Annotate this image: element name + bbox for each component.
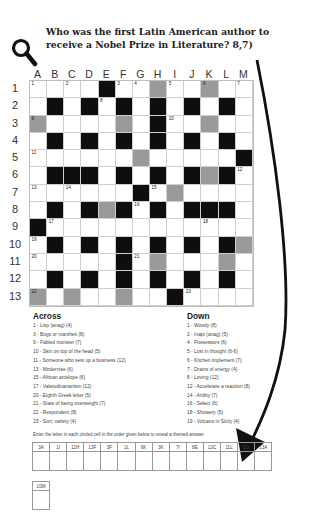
grid-cell[interactable]: [30, 98, 47, 115]
grid-cell[interactable]: [201, 133, 218, 150]
grid-cell[interactable]: [201, 185, 218, 202]
grid-cell[interactable]: [133, 98, 150, 115]
grid-cell[interactable]: [99, 254, 116, 271]
grid-cell[interactable]: [167, 271, 184, 288]
answer-letter-slot[interactable]: [33, 491, 49, 509]
grid-cell[interactable]: 7: [236, 81, 253, 98]
grid-cell[interactable]: 8: [99, 98, 116, 115]
grid-cell[interactable]: 3: [116, 81, 133, 98]
grid-cell[interactable]: 2: [64, 81, 81, 98]
circled-cell[interactable]: [167, 185, 184, 202]
grid-cell[interactable]: [47, 81, 64, 98]
grid-cell[interactable]: [236, 98, 253, 115]
circled-cell[interactable]: 9: [30, 116, 47, 133]
grid-cell[interactable]: [64, 116, 81, 133]
grid-cell[interactable]: [133, 271, 150, 288]
grid-cell[interactable]: [150, 219, 167, 236]
answer-box[interactable]: 5G: [238, 442, 255, 471]
grid-cell[interactable]: [81, 254, 98, 271]
grid-cell[interactable]: [150, 289, 167, 306]
answer-box[interactable]: 3A: [33, 442, 50, 471]
circled-cell[interactable]: [201, 116, 218, 133]
grid-cell[interactable]: [150, 150, 167, 167]
grid-cell[interactable]: 12: [236, 167, 253, 184]
grid-cell[interactable]: [99, 116, 116, 133]
answer-letter-slot[interactable]: [238, 452, 254, 470]
grid-cell[interactable]: [30, 167, 47, 184]
grid-cell[interactable]: [81, 150, 98, 167]
grid-cell[interactable]: [219, 81, 236, 98]
answer-letter-slot[interactable]: [67, 452, 83, 470]
answer-letter-slot[interactable]: [170, 452, 186, 470]
grid-cell[interactable]: [64, 219, 81, 236]
circled-cell[interactable]: [150, 81, 167, 98]
answer-letter-slot[interactable]: [255, 452, 271, 470]
answer-box[interactable]: 13C: [204, 442, 221, 471]
grid-cell[interactable]: [99, 167, 116, 184]
circled-cell[interactable]: [64, 289, 81, 306]
grid-cell[interactable]: 17: [47, 219, 64, 236]
grid-cell[interactable]: [133, 167, 150, 184]
grid-cell[interactable]: [219, 116, 236, 133]
answer-letter-slot[interactable]: [187, 452, 203, 470]
grid-cell[interactable]: [167, 167, 184, 184]
answer-box[interactable]: 6K: [136, 442, 153, 471]
circled-cell[interactable]: [201, 167, 218, 184]
grid-cell[interactable]: [30, 133, 47, 150]
grid-cell[interactable]: 1: [30, 81, 47, 98]
grid-cell[interactable]: [99, 133, 116, 150]
grid-cell[interactable]: [184, 219, 201, 236]
grid-cell[interactable]: [64, 237, 81, 254]
circled-cell[interactable]: [133, 150, 150, 167]
grid-cell[interactable]: [30, 271, 47, 288]
grid-cell[interactable]: [201, 271, 218, 288]
grid-cell[interactable]: [219, 150, 236, 167]
grid-cell[interactable]: 23: [184, 289, 201, 306]
grid-cell[interactable]: 14: [64, 185, 81, 202]
grid-cell[interactable]: 5: [167, 81, 184, 98]
grid-cell[interactable]: [133, 219, 150, 236]
grid-cell[interactable]: [133, 116, 150, 133]
grid-cell[interactable]: [167, 150, 184, 167]
answer-letter-slot[interactable]: [136, 452, 152, 470]
answer-letter-slot[interactable]: [118, 452, 134, 470]
answer-box[interactable]: 11H: [67, 442, 84, 471]
grid-cell[interactable]: [64, 271, 81, 288]
grid-cell[interactable]: [81, 219, 98, 236]
grid-cell[interactable]: [219, 289, 236, 306]
grid-cell[interactable]: [236, 116, 253, 133]
grid-cell[interactable]: 20: [30, 254, 47, 271]
grid-cell[interactable]: [81, 185, 98, 202]
circled-cell[interactable]: [116, 289, 133, 306]
grid-cell[interactable]: [184, 81, 201, 98]
grid-cell[interactable]: [167, 202, 184, 219]
grid-cell[interactable]: 21: [133, 254, 150, 271]
answer-box[interactable]: 1L: [118, 442, 135, 471]
grid-cell[interactable]: [99, 219, 116, 236]
grid-cell[interactable]: [64, 150, 81, 167]
answer-letter-slot[interactable]: [221, 452, 237, 470]
grid-cell[interactable]: [47, 116, 64, 133]
circled-cell[interactable]: [99, 202, 116, 219]
answer-box[interactable]: 11L: [221, 442, 238, 471]
answer-letter-slot[interactable]: [153, 452, 169, 470]
grid-cell[interactable]: 11: [30, 150, 47, 167]
grid-cell[interactable]: 18: [201, 219, 218, 236]
grid-cell[interactable]: [116, 150, 133, 167]
grid-cell[interactable]: 15: [150, 185, 167, 202]
grid-cell[interactable]: [167, 133, 184, 150]
grid-cell[interactable]: [167, 237, 184, 254]
grid-cell[interactable]: [47, 150, 64, 167]
grid-cell[interactable]: [30, 202, 47, 219]
grid-cell[interactable]: [184, 254, 201, 271]
grid-cell[interactable]: [64, 254, 81, 271]
grid-cell[interactable]: [81, 289, 98, 306]
grid-cell[interactable]: [201, 254, 218, 271]
answer-box[interactable]: 3F: [101, 442, 118, 471]
answer-letter-slot[interactable]: [33, 452, 49, 470]
grid-cell[interactable]: [236, 202, 253, 219]
answer-box[interactable]: 3K: [153, 442, 170, 471]
grid-cell[interactable]: 13: [30, 185, 47, 202]
answer-box[interactable]: 13A: [255, 442, 272, 471]
grid-cell[interactable]: [47, 254, 64, 271]
